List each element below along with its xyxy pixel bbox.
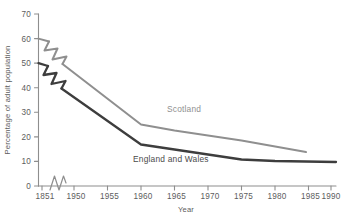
series-label-england-wales: England and Wales (133, 154, 209, 164)
chart-canvas: 0 10 20 30 40 50 60 70 1851 1950 1955 19… (0, 0, 341, 218)
y-axis-title: Percentage of adult population (3, 45, 12, 154)
x-tick-label: 1955 (100, 192, 119, 201)
series-scotland-break-zigzag (45, 42, 67, 65)
y-axis-tick-labels: 0 10 20 30 40 50 60 70 (21, 10, 31, 191)
y-tick-label: 70 (21, 10, 31, 19)
series-scotland-prebreak (39, 39, 50, 42)
y-tick-label: 0 (26, 182, 31, 191)
series-england-wales-break-zigzag (44, 66, 66, 89)
series-england-wales-prebreak (39, 63, 49, 66)
x-tick-label: 1985 (301, 192, 320, 201)
x-tick-label: 1975 (234, 192, 253, 201)
x-tick-label: 1965 (167, 192, 186, 201)
x-tick-label: 1990 (321, 192, 340, 201)
chart-figure: 0 10 20 30 40 50 60 70 1851 1950 1955 19… (0, 0, 341, 218)
x-tick-label: 1970 (200, 192, 219, 201)
x-axis-tick-labels: 1851 1950 1955 1960 1965 1970 1975 1980 … (35, 192, 340, 201)
y-tick-label: 40 (21, 84, 31, 93)
x-tick-label: 1960 (133, 192, 152, 201)
x-axis-ticks (42, 186, 331, 190)
x-axis-break-zigzag (50, 176, 66, 190)
y-tick-label: 50 (21, 59, 31, 68)
y-axis-ticks (35, 14, 39, 186)
y-tick-label: 20 (21, 133, 31, 142)
series-label-scotland: Scotland (167, 104, 201, 114)
y-tick-label: 30 (21, 108, 31, 117)
y-tick-label: 60 (21, 35, 31, 44)
x-tick-label: 1851 (35, 192, 54, 201)
y-tick-label: 10 (21, 157, 31, 166)
x-tick-label: 1980 (267, 192, 286, 201)
x-tick-label: 1950 (66, 192, 85, 201)
x-axis-title: Year (178, 205, 194, 214)
